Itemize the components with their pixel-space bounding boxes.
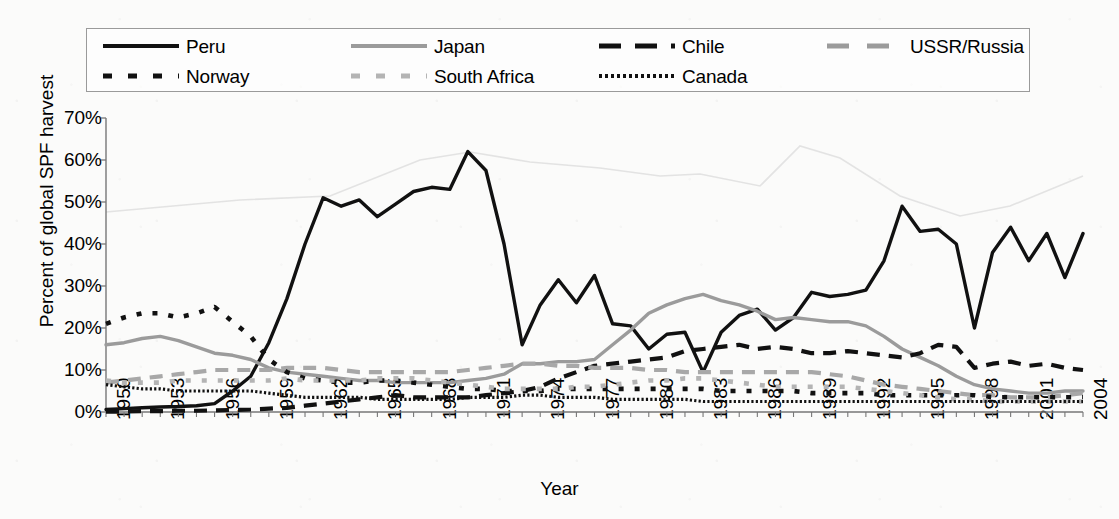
x-tick-label: 1971 <box>494 378 513 420</box>
x-tick-label: 1956 <box>223 378 242 420</box>
x-tick-label: 1989 <box>820 378 839 420</box>
x-tick-label: 1974 <box>548 378 567 420</box>
x-tick-label: 1998 <box>982 378 1001 420</box>
x-tick-label: 1959 <box>277 378 296 420</box>
x-tick-label: 1983 <box>711 378 730 420</box>
x-tick-label: 1977 <box>603 378 622 420</box>
x-tick-label: 1980 <box>657 378 676 420</box>
x-tick-label: 1965 <box>385 378 404 420</box>
x-tick-label: 1950 <box>114 378 133 420</box>
x-tick-label: 1992 <box>874 378 893 420</box>
x-tick-label: 2004 <box>1091 378 1110 420</box>
x-tick-label: 1968 <box>440 378 459 420</box>
x-tick-label: 1995 <box>928 378 947 420</box>
chart-page: Peru Japan Chile USSR/Russia Norway <box>0 0 1119 519</box>
x-tick-label: 1986 <box>765 378 784 420</box>
x-tick-label: 2001 <box>1037 378 1056 420</box>
x-tick-label: 1962 <box>331 378 350 420</box>
x-axis-tick-labels: 1950195319561959196219651968197119741977… <box>0 0 1119 519</box>
x-tick-label: 1953 <box>168 378 187 420</box>
